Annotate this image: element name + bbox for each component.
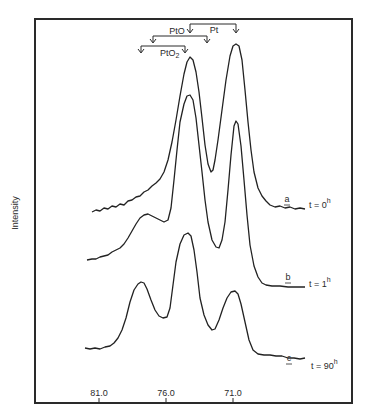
curve-a-label: a (284, 194, 289, 204)
curve-b (87, 95, 305, 287)
xps-spectrum-chart: Intensity 81.0 76.0 71.0 Pt PtO PtO2 a t… (0, 0, 369, 419)
curve-c (85, 233, 305, 359)
curve-b-label: b (285, 272, 290, 282)
curve-a-time: t = 0h (309, 197, 331, 210)
peak-annotations (138, 24, 239, 53)
x-axis-ticks: 81.0 76.0 71.0 (90, 388, 242, 403)
x-tick-76: 76.0 (157, 388, 175, 398)
pto-label: PtO (169, 26, 185, 36)
curve-a (92, 44, 305, 212)
x-tick-81: 81.0 (90, 388, 108, 398)
plot-frame (35, 19, 352, 403)
x-tick-71: 71.0 (224, 388, 242, 398)
y-axis-label: Intensity (10, 196, 20, 230)
curve-c-label: c (287, 353, 292, 363)
pt-label: Pt (210, 25, 219, 35)
curve-b-time: t = 1h (309, 276, 331, 289)
curve-c-time: t = 90h (311, 358, 338, 371)
pto2-label: PtO2 (160, 48, 180, 59)
